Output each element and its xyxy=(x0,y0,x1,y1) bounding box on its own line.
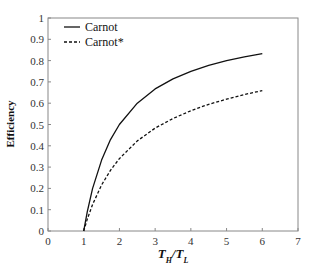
y-tick-label: 0.4 xyxy=(30,140,44,152)
y-tick-label: 0.6 xyxy=(30,97,44,109)
y-tick-label: 0.3 xyxy=(30,161,44,173)
x-tick-label: 1 xyxy=(81,235,87,247)
series-line-carnot-star xyxy=(84,91,263,231)
plot-frame xyxy=(48,18,298,231)
y-tick-label: 0.9 xyxy=(30,33,44,45)
x-tick-label: 0 xyxy=(45,235,51,247)
legend: Carnot Carnot* xyxy=(64,20,124,49)
y-tick-label: 0.1 xyxy=(30,204,44,216)
series-lines xyxy=(84,54,263,231)
x-tick-label: 4 xyxy=(188,235,194,247)
x-tick-label: 7 xyxy=(295,235,301,247)
y-axis-label: Efficiency xyxy=(4,100,16,148)
x-tick-label: 2 xyxy=(117,235,123,247)
y-tick-label: 0.5 xyxy=(30,119,44,131)
y-tick-label: 0.7 xyxy=(30,76,44,88)
y-tick-label: 0.8 xyxy=(30,55,44,67)
x-tick-label: 6 xyxy=(260,235,266,247)
x-axis-label: TH/TL xyxy=(158,246,189,265)
y-tick-label: 0.2 xyxy=(30,182,44,194)
efficiency-chart: 01234567 00.10.20.30.40.50.60.70.80.91 C… xyxy=(0,0,316,273)
series-line-carnot xyxy=(84,54,263,231)
legend-label-carnot-star: Carnot* xyxy=(85,35,124,49)
y-tick-label: 0 xyxy=(39,225,45,237)
x-tick-label: 5 xyxy=(224,235,230,247)
y-tick-label: 1 xyxy=(39,12,45,24)
legend-label-carnot: Carnot xyxy=(85,20,118,34)
